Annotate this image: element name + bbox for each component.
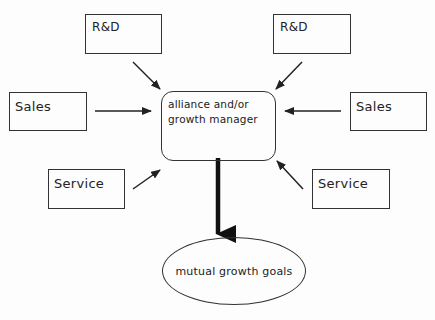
service-right-box: Service [312, 169, 390, 209]
arrow-service-right [277, 161, 303, 189]
arrow-rd-right [276, 62, 302, 89]
alliance-growth-manager-label: alliance and/or growth manager [168, 97, 258, 127]
diagram-canvas: R&D R&D Sales Sales alliance and/or grow… [0, 0, 435, 320]
sales-left-label: Sales [15, 99, 51, 114]
sales-right-box: Sales [350, 92, 427, 131]
rd-left-label: R&D [92, 20, 120, 34]
mutual-growth-goals-ellipse: mutual growth goals [162, 237, 306, 305]
sales-right-label: Sales [356, 99, 392, 114]
rd-right-label: R&D [280, 20, 308, 34]
arrow-service-left [133, 170, 160, 189]
service-left-label: Service [54, 176, 104, 191]
service-left-box: Service [48, 169, 125, 209]
service-right-label: Service [318, 176, 368, 191]
sales-left-box: Sales [9, 92, 87, 131]
alliance-growth-manager-box: alliance and/or growth manager [161, 91, 276, 161]
rd-right-box: R&D [273, 14, 351, 54]
arrow-rd-left [133, 62, 160, 89]
mutual-growth-goals-label: mutual growth goals [175, 265, 292, 278]
rd-left-box: R&D [85, 14, 162, 54]
